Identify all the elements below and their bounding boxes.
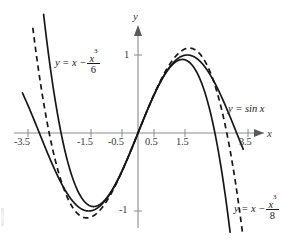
label-taylor-6-fraction: x36 [87,52,99,76]
label-taylor-8-exponent: 3 [273,193,277,201]
x-axis-arrowhead [254,129,264,137]
x-tick-label-neg0p5: -0.5 [108,136,124,147]
label-taylor-8-fraction: x38 [266,198,278,222]
x-tick-label-3p5: 3.5 [239,136,252,147]
x-tick-label-neg1p5: -1.5 [77,136,93,147]
label-taylor-6: y = x −x36 [55,52,100,76]
y-axis-label: y [133,10,138,22]
taylor-approximation-figure: -3.5 -1.5 -0.5 0.5 1.5 3.5 1 -1 x y y = … [0,0,299,245]
x-tick-label-1p5: 1.5 [176,136,189,147]
x-tick-label-0p5: 0.5 [145,136,158,147]
label-sine: y = sin x [228,104,265,115]
label-taylor-6-denominator: 6 [87,64,99,75]
label-taylor-6-exponent: 3 [94,47,98,55]
scan-edge-artifact [1,208,4,226]
label-taylor-6-prefix: y = x − [55,57,86,68]
x-tick-label-neg3p5: -3.5 [14,136,30,147]
y-axis-arrowhead [134,25,142,36]
y-tick-label-1: 1 [124,49,129,60]
label-taylor-8-prefix: y = x − [234,203,265,214]
curve-group [22,14,243,232]
label-taylor-8-denominator: 8 [266,210,278,221]
label-taylor-8: y = x −x38 [234,198,279,222]
x-axis-label: x [267,127,272,139]
y-tick-label-neg1: -1 [119,204,127,215]
label-sine-text: y = sin x [228,103,265,114]
